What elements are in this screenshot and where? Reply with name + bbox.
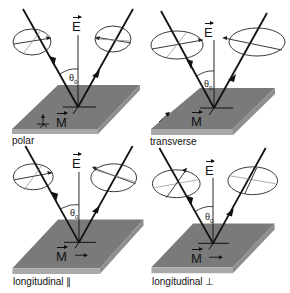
longitudinal-perpendicular-diagram [145,146,290,292]
magnetization-label: M [56,250,67,263]
reflected-arrowhead [92,70,100,78]
electric-field-label: E [72,157,81,170]
angle-label: θ0 [69,74,77,85]
magnetization-label: M [56,116,67,129]
magnetization-label: M [191,115,202,128]
transverse-diagram [145,0,290,146]
panel-transverse: E θ0 M transverse [145,0,290,146]
electric-field-label: E [72,20,81,33]
slab-front-face [12,129,98,134]
panel-label: longitudinal ⊥ [152,277,214,287]
panel-polar: E θ0 M polar [0,0,145,146]
angle-label: θ0 [70,209,78,220]
magnetization-label: M [191,252,202,265]
panel-longitudinal-parallel: E θ0 M longitudinal ∥ [0,146,145,292]
panel-longitudinal-perpendicular: E θ0 M longitudinal ⊥ [145,146,290,292]
panel-label: longitudinal ∥ [13,277,71,287]
electric-field-label: E [204,26,213,39]
electric-field-label: E [205,164,214,177]
angle-label: θ0 [205,213,213,224]
moke-geometries-figure: E θ0 M polar E [0,0,290,293]
panel-label: polar [12,136,34,146]
angle-label: θ0 [204,80,212,91]
